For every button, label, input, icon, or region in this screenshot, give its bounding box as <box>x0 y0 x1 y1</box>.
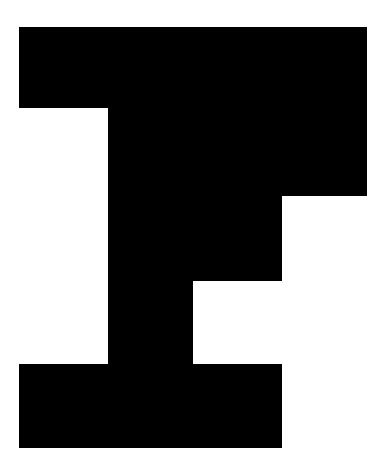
glyph-canvas: Large black capital letter F <box>0 0 389 473</box>
image-canvas: Large black capital letter F <box>0 0 389 473</box>
